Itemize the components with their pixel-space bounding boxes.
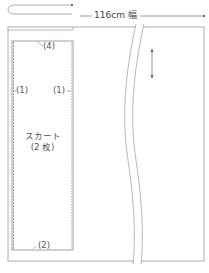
grainline-arrowhead-bottom bbox=[151, 75, 154, 79]
width-dimension-dot bbox=[203, 15, 205, 17]
piece-count-label: (2 枚) bbox=[12, 143, 73, 152]
fabric-width-label: 116cm 幅 bbox=[92, 11, 139, 20]
leader-bottom bbox=[33, 246, 36, 249]
fold-indicator-dot bbox=[71, 4, 73, 6]
seam-allowance-top-label: (4) bbox=[43, 42, 55, 51]
piece-name-label: スカート bbox=[12, 132, 73, 141]
seam-allowance-bottom-label: (2) bbox=[38, 241, 50, 250]
seam-allowance-left-label: (1) bbox=[16, 86, 28, 95]
seam-allowance-right-label: (1) bbox=[53, 86, 65, 95]
fold-indicator-curve bbox=[8, 5, 72, 14]
grainline-arrowhead-top bbox=[151, 48, 154, 52]
